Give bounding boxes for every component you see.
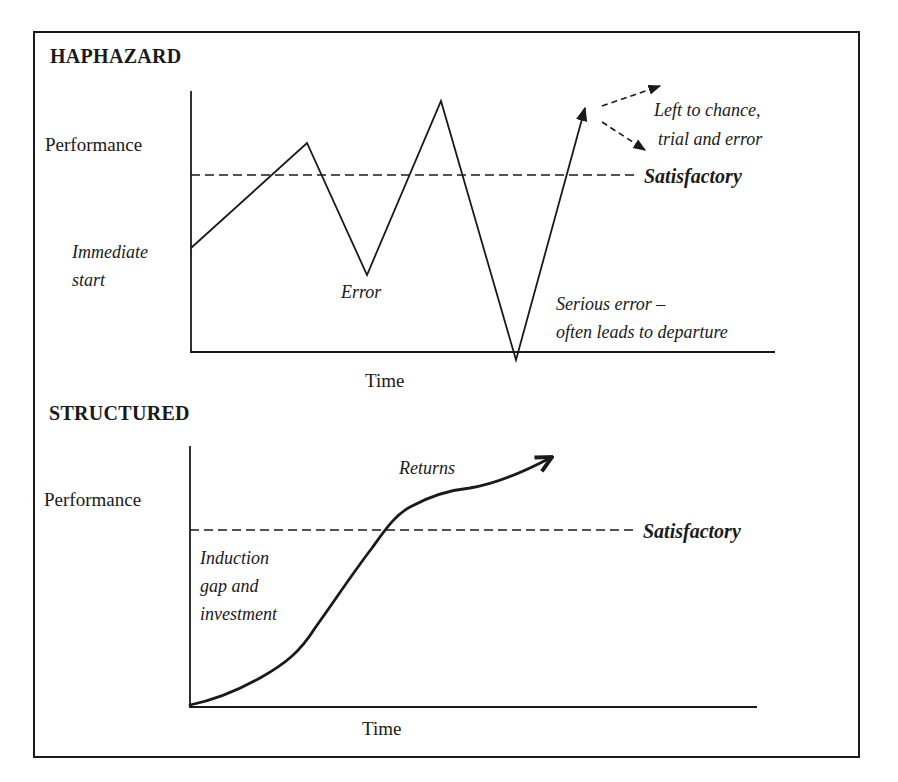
- induction-label-line2: gap and: [200, 576, 259, 597]
- immediate-start-label-line1: Immediate: [72, 242, 148, 263]
- returns-label: Returns: [399, 458, 455, 479]
- haphazard-performance-line: [191, 101, 585, 360]
- structured-x-axis-label: Time: [362, 718, 401, 740]
- structured-title: STRUCTURED: [49, 402, 190, 425]
- induction-label-line1: Induction: [200, 548, 269, 569]
- structured-satisfactory-label: Satisfactory: [643, 520, 741, 543]
- haphazard-title: HAPHAZARD: [50, 45, 182, 68]
- haphazard-y-axis-label: Performance: [45, 134, 142, 156]
- induction-label-line3: investment: [200, 604, 277, 625]
- structured-y-axis-label: Performance: [44, 489, 141, 511]
- serious-error-label-line2: often leads to departure: [556, 322, 728, 343]
- left-to-chance-label-line2: trial and error: [658, 129, 762, 150]
- left-to-chance-label-line1: Left to chance,: [654, 100, 760, 121]
- serious-error-label-line1: Serious error –: [556, 294, 665, 315]
- diagram-graphics: [0, 0, 898, 782]
- diagram-stage: HAPHAZARD Performance Time Satisfactory …: [0, 0, 898, 782]
- chance-arrow-up-icon: [602, 86, 660, 106]
- error-label: Error: [341, 282, 381, 303]
- chance-arrow-down-icon: [602, 122, 645, 150]
- immediate-start-label-line2: start: [72, 270, 105, 291]
- haphazard-x-axis-label: Time: [365, 370, 404, 392]
- haphazard-satisfactory-label: Satisfactory: [644, 165, 742, 188]
